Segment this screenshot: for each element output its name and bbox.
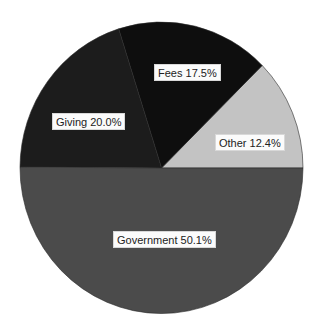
label-giving: Giving 20.0% bbox=[52, 113, 125, 130]
label-other: Other 12.4% bbox=[215, 134, 285, 151]
pie-chart: Fees 17.5% Giving 20.0% Other 12.4% Gove… bbox=[0, 0, 318, 333]
label-government: Government 50.1% bbox=[113, 231, 216, 248]
pie-chart-svg bbox=[0, 0, 318, 333]
label-fees: Fees 17.5% bbox=[154, 64, 221, 81]
